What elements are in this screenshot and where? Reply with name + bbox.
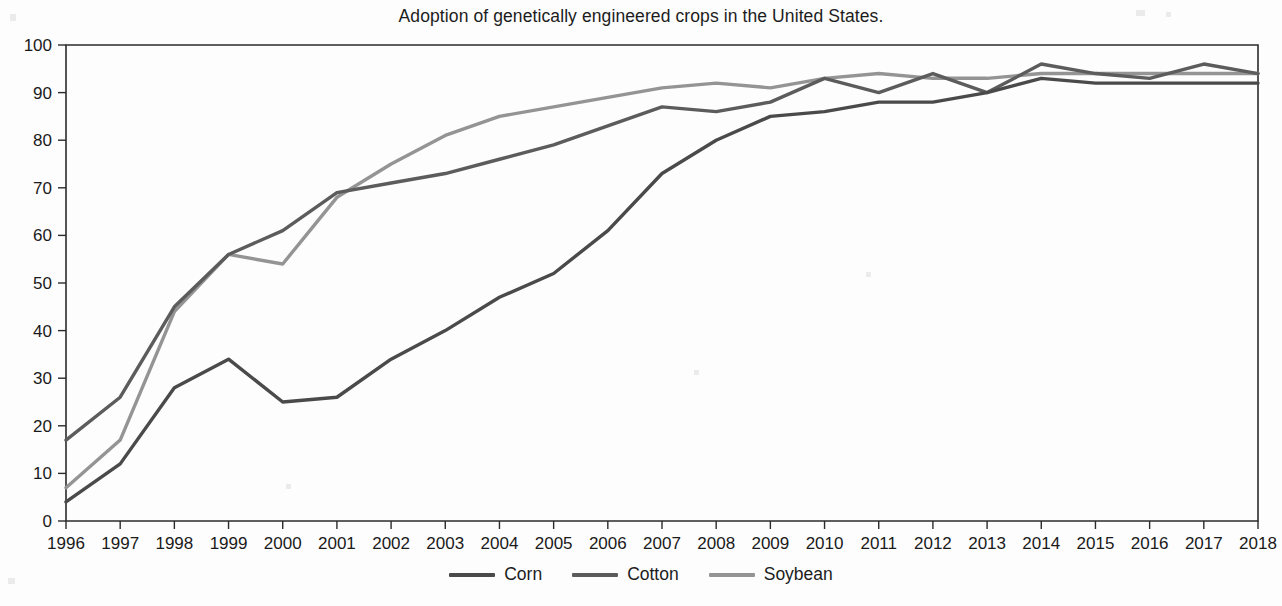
y-tick-label: 60 (33, 226, 52, 245)
legend-item-soybean[interactable]: Soybean (709, 566, 833, 584)
scan-artifact (8, 578, 15, 584)
x-tick-label: 1998 (155, 534, 193, 553)
x-tick-label: 2010 (806, 534, 844, 553)
legend-swatch-icon (572, 573, 618, 577)
x-tick-label: 2004 (481, 534, 519, 553)
legend-item-corn[interactable]: Corn (449, 566, 542, 584)
chart-legend: CornCottonSoybean (0, 566, 1282, 584)
data-series-group (66, 64, 1258, 502)
line-chart-plot: 0102030405060708090100 19961997199819992… (0, 0, 1282, 606)
x-tick-label: 1996 (47, 534, 85, 553)
y-tick-label: 0 (43, 512, 52, 531)
scan-artifact (1136, 10, 1145, 16)
y-tick-label: 100 (24, 36, 52, 55)
x-tick-label: 2014 (1022, 534, 1060, 553)
y-tick-label: 70 (33, 179, 52, 198)
x-tick-label: 2016 (1131, 534, 1169, 553)
x-tick-label: 2012 (914, 534, 952, 553)
scan-artifact (286, 484, 291, 489)
series-line-cotton (66, 64, 1258, 440)
series-line-corn (66, 78, 1258, 502)
x-tick-label: 1997 (101, 534, 139, 553)
y-axis-ticks: 0102030405060708090100 (24, 36, 66, 531)
scan-artifact (694, 370, 699, 375)
x-tick-label: 2002 (372, 534, 410, 553)
x-tick-label: 2017 (1185, 534, 1223, 553)
axis-frame (66, 45, 1258, 521)
scan-artifact (10, 14, 16, 21)
x-tick-label: 2008 (697, 534, 735, 553)
x-tick-label: 2001 (318, 534, 356, 553)
x-tick-label: 2007 (643, 534, 681, 553)
x-tick-label: 2018 (1239, 534, 1277, 553)
chart-figure: Adoption of genetically engineered crops… (0, 0, 1282, 606)
y-tick-label: 80 (33, 131, 52, 150)
legend-label: Cotton (627, 566, 679, 584)
x-tick-label: 1999 (210, 534, 248, 553)
x-tick-label: 2009 (751, 534, 789, 553)
y-tick-label: 20 (33, 417, 52, 436)
legend-label: Soybean (764, 566, 833, 584)
x-tick-label: 2011 (860, 534, 897, 553)
y-tick-label: 50 (33, 274, 52, 293)
x-tick-label: 2003 (426, 534, 464, 553)
legend-label: Corn (504, 566, 542, 584)
x-tick-label: 2006 (589, 534, 627, 553)
scan-artifact (866, 272, 871, 277)
y-tick-label: 40 (33, 322, 52, 341)
legend-swatch-icon (449, 573, 495, 577)
x-tick-label: 2000 (264, 534, 302, 553)
legend-item-cotton[interactable]: Cotton (572, 566, 679, 584)
series-line-soybean (66, 74, 1258, 488)
x-tick-label: 2013 (968, 534, 1006, 553)
x-axis-ticks: 1996199719981999200020012002200320042005… (47, 521, 1277, 553)
y-tick-label: 30 (33, 369, 52, 388)
legend-swatch-icon (709, 573, 755, 577)
scan-artifact (1166, 12, 1171, 17)
x-tick-label: 2015 (1077, 534, 1115, 553)
y-tick-label: 10 (33, 464, 52, 483)
x-tick-label: 2005 (535, 534, 573, 553)
y-tick-label: 90 (33, 84, 52, 103)
